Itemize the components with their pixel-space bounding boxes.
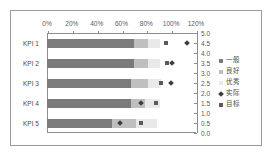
secondary-y-axis-tick [194,83,197,84]
secondary-y-axis-tick [194,43,197,44]
secondary-y-axis-tick-label: 3.0 [201,70,210,77]
secondary-y-axis-tick-label: 0.0 [201,130,210,137]
legend-swatch-square-icon [219,70,223,74]
legend-item[interactable]: 良好 [219,66,261,77]
secondary-y-axis-tick-label: 4.0 [201,50,210,57]
x-axis-tick [73,31,74,34]
secondary-y-axis-tick [194,63,197,64]
chart-row [11,119,261,128]
x-axis-tick [98,31,99,34]
legend-label: 良好 [226,68,240,75]
legend-swatch-square-icon [219,59,223,63]
chart-row [11,39,261,48]
secondary-y-axis [197,33,198,133]
secondary-y-axis-tick [194,73,197,74]
x-axis-tick-label: 40% [90,20,103,27]
secondary-y-axis-tick-label: 2.5 [201,80,210,87]
x-axis-tick-label: 0% [42,20,51,27]
range-band-2 [134,39,148,48]
x-axis-tick-label: 120% [188,20,205,27]
range-band-3 [148,39,160,48]
chart-legend: 一般良好优秀实际目标 [219,55,261,110]
range-band-2 [134,59,148,68]
target-marker [159,81,163,85]
legend-item[interactable]: 目标 [219,99,261,110]
x-axis-tick-label: 80% [140,20,153,27]
x-axis-tick [172,31,173,34]
secondary-y-axis-tick-label: 1.0 [201,110,210,117]
secondary-y-axis-tick [194,113,197,114]
range-band-1 [47,39,134,48]
secondary-y-axis-tick-label: 0.5 [201,120,210,127]
legend-label: 优秀 [226,79,240,86]
target-marker [154,101,158,105]
secondary-y-axis-tick-label: 3.5 [201,60,210,67]
secondary-y-axis-tick-label: 5.0 [201,30,210,37]
target-marker [164,41,168,45]
legend-label: 目标 [226,101,240,108]
x-axis-tick [48,31,49,34]
x-axis-tick-label: 60% [115,20,128,27]
range-band-1 [47,119,112,128]
target-marker [139,121,143,125]
secondary-y-axis-tick-label: 2.0 [201,90,210,97]
secondary-y-axis-tick [194,93,197,94]
secondary-y-axis-tick [194,133,197,134]
chart-frame: 0%20%40%60%80%100%120% KPI 1KPI 2KPI 3KP… [10,10,262,146]
x-axis-tick [123,31,124,34]
secondary-y-axis-tick-label: 1.5 [201,100,210,107]
secondary-y-axis-tick [194,103,197,104]
legend-swatch-square-icon [219,103,223,107]
actual-marker [170,60,176,66]
range-band-1 [47,99,131,108]
range-band-2 [112,119,137,128]
range-band-1 [47,79,131,88]
actual-marker [168,80,174,86]
legend-swatch-diamond-icon [218,91,224,97]
legend-swatch-square-icon [219,81,223,85]
legend-item[interactable]: 实际 [219,88,261,99]
x-axis-tick-label: 20% [65,20,78,27]
legend-label: 一般 [226,57,240,64]
x-axis-tick-label: 100% [163,20,180,27]
range-band-3 [148,59,160,68]
legend-item[interactable]: 一般 [219,55,261,66]
actual-marker [184,40,190,46]
legend-label: 实际 [226,90,240,97]
secondary-y-axis-tick [194,53,197,54]
range-band-2 [131,79,147,88]
x-axis-tick [147,31,148,34]
secondary-y-axis-tick [194,123,197,124]
secondary-y-axis-tick-label: 4.5 [201,40,210,47]
legend-item[interactable]: 优秀 [219,77,261,88]
secondary-y-axis-tick [194,33,197,34]
range-band-1 [47,59,134,68]
